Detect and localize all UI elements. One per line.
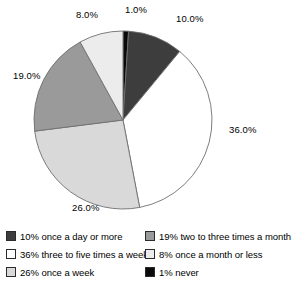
legend-column-left: 10% once a day or more 36% three to five… [6,228,146,282]
pie-slice-group [34,31,212,209]
legend-swatch-once-a-day-or-more [6,231,16,241]
slice-label-two-to-three-times-a-month: 19.0% [13,70,40,81]
legend-swatch-once-a-month-or-less [145,249,155,259]
slice-label-never: 1.0% [125,4,147,15]
legend-item-never: 1% never [145,264,294,280]
legend-item-once-a-week: 26% once a week [6,264,146,280]
legend-item-once-a-month-or-less: 8% once a month or less [145,246,294,262]
legend-item-three-to-five-times-a-week: 36% three to five times a week [6,246,146,262]
legend-column-right: 19% two to three times a month 8% once a… [145,228,294,282]
legend-label-two-to-three-times-a-month: 19% two to three times a month [159,231,291,242]
legend-item-two-to-three-times-a-month: 19% two to three times a month [145,228,294,244]
chart-legend: 10% once a day or more 36% three to five… [0,228,294,290]
legend-swatch-three-to-five-times-a-week [6,249,16,259]
slice-label-once-a-week: 26.0% [72,202,99,213]
legend-label-once-a-week: 26% once a week [20,267,94,278]
legend-swatch-once-a-week [6,267,16,277]
legend-swatch-two-to-three-times-a-month [145,231,155,241]
pie-slice-once-a-week [35,120,140,209]
legend-label-once-a-day-or-more: 10% once a day or more [20,231,122,242]
pie-chart: 1.0% 10.0% 36.0% 26.0% 19.0% 8.0% [0,0,294,225]
legend-label-never: 1% never [159,267,199,278]
legend-item-once-a-day-or-more: 10% once a day or more [6,228,146,244]
legend-swatch-never [145,267,155,277]
slice-label-once-a-month-or-less: 8.0% [76,9,98,20]
pie-chart-svg [0,0,294,225]
legend-label-three-to-five-times-a-week: 36% three to five times a week [20,249,148,260]
legend-label-once-a-month-or-less: 8% once a month or less [159,249,262,260]
slice-label-once-a-day-or-more: 10.0% [176,13,203,24]
slice-label-three-to-five-times-a-week: 36.0% [229,124,256,135]
